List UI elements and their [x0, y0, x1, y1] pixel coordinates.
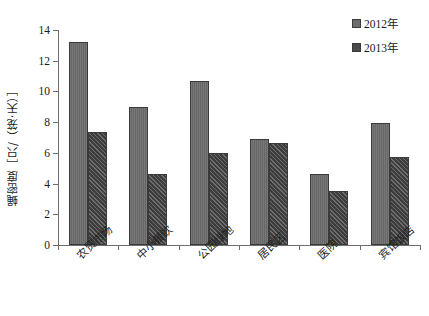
bar-2012[interactable] [310, 174, 329, 245]
bar-2012[interactable] [129, 107, 148, 245]
y-tick-label: 2 [44, 208, 50, 220]
legend-label-2012: 2012年 [364, 15, 398, 31]
legend-item-2013[interactable]: 2013年 [352, 39, 398, 55]
bar-2012[interactable] [250, 139, 269, 245]
legend: 2012年 2013年 [352, 15, 398, 55]
bar-group [360, 30, 420, 245]
x-tick [299, 245, 300, 250]
x-tick [239, 245, 240, 250]
x-tick [58, 245, 59, 250]
x-tick [179, 245, 180, 250]
x-tick [360, 245, 361, 250]
y-tick-label: 14 [39, 24, 51, 36]
bar-chart: 蝇密度［只/（笼·天）］ 02468101214 农贸市场中小餐饮公园绿地居民区… [0, 0, 429, 316]
y-tick-label: 10 [39, 85, 51, 97]
x-tick [420, 245, 421, 250]
plot-area: 02468101214 [58, 30, 420, 245]
y-tick-label: 8 [44, 116, 50, 128]
bar-group [58, 30, 118, 245]
legend-swatch-icon-2012 [352, 19, 361, 28]
y-axis-title: 蝇密度［只/（笼·天）］ [2, 40, 24, 250]
bar-2013[interactable] [329, 191, 348, 245]
bar-group [179, 30, 239, 245]
bar-group [299, 30, 359, 245]
bar-2012[interactable] [371, 123, 390, 245]
bar-2012[interactable] [69, 42, 88, 245]
legend-item-2012[interactable]: 2012年 [352, 15, 398, 31]
y-tick-label: 4 [44, 178, 50, 190]
y-tick-label: 6 [44, 147, 50, 159]
legend-label-2013: 2013年 [364, 39, 398, 55]
y-tick-label: 0 [44, 239, 50, 251]
x-tick [118, 245, 119, 250]
legend-swatch-icon-2013 [352, 43, 361, 52]
y-tick-label: 12 [39, 55, 51, 67]
bar-group [118, 30, 178, 245]
bar-2012[interactable] [190, 81, 209, 245]
bar-group [239, 30, 299, 245]
